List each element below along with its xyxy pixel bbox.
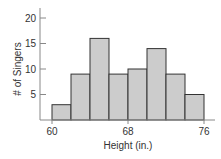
x-tick-label: 76 — [198, 126, 210, 137]
histogram-bar — [128, 69, 147, 120]
x-axis-title: Height (in.) — [104, 140, 153, 151]
histogram-bar — [52, 105, 71, 120]
histogram-bar — [166, 74, 185, 120]
y-axis-title: # of Singers — [12, 42, 23, 95]
histogram-bar — [90, 38, 109, 120]
histogram-chart: 5101520606876Height (in.)# of Singers — [0, 0, 221, 159]
y-tick-label: 10 — [25, 64, 37, 75]
x-tick-label: 68 — [122, 126, 134, 137]
histogram-bar — [109, 74, 128, 120]
histogram-bar — [185, 95, 204, 121]
y-tick-label: 5 — [30, 89, 36, 100]
bars — [52, 38, 204, 120]
y-tick-label: 15 — [25, 38, 37, 49]
histogram-bar — [71, 74, 90, 120]
y-tick-label: 20 — [25, 13, 37, 24]
x-tick-label: 60 — [46, 126, 58, 137]
histogram-bar — [147, 49, 166, 120]
